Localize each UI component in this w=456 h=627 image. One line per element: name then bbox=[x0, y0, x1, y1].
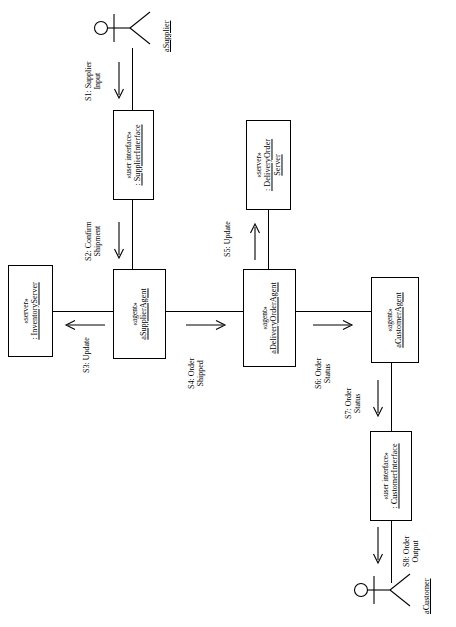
node-customer-interface-stereotype: «user interface» bbox=[381, 443, 390, 508]
message-s6-line1: S6: Order bbox=[314, 358, 323, 389]
node-customer-agent-stereotype: «agent» bbox=[385, 292, 394, 347]
message-s1-line1: S1: Supplier bbox=[84, 61, 93, 101]
message-s1-label: S1: Supplier Input bbox=[84, 61, 102, 101]
message-s1-line2: Input bbox=[93, 73, 102, 90]
node-inventory-server-label: «server» : InventoryServer bbox=[21, 282, 40, 340]
arrow-s3 bbox=[60, 318, 105, 332]
arrow-s5 bbox=[248, 222, 262, 262]
node-supplier-agent-stereotype: «agent» bbox=[130, 288, 139, 339]
node-inventory-server[interactable]: «server» : InventoryServer bbox=[8, 265, 53, 357]
node-supplier-agent-instance: aSupplierAgent bbox=[139, 288, 149, 339]
arrow-s1 bbox=[112, 62, 126, 102]
link-interface-to-supplier-agent bbox=[132, 200, 133, 276]
node-delivery-order-server-instance: : DeliveryOrder Server bbox=[263, 139, 283, 191]
message-s3-label: S3: Update bbox=[82, 337, 91, 373]
node-supplier-interface-stereotype: «user interface» bbox=[124, 124, 133, 185]
node-supplier-interface-instance: : SupplierInterface bbox=[133, 124, 143, 185]
node-delivery-order-server-stereotype: «server» bbox=[254, 139, 263, 191]
node-inventory-server-stereotype: «server» bbox=[21, 282, 30, 340]
message-s2-line2: Shipment bbox=[93, 226, 102, 257]
collaboration-diagram-canvas: aSupplier S1: Supplier Input «user inter… bbox=[0, 0, 456, 627]
actor-customer-label: aCustomer bbox=[422, 579, 431, 614]
node-delivery-order-agent-instance: aDeliveryOrderAgent bbox=[269, 282, 279, 353]
node-customer-interface-instance: : CustomerInterface bbox=[391, 443, 401, 508]
node-delivery-order-agent[interactable]: «agent» aDeliveryOrderAgent bbox=[243, 269, 296, 367]
node-supplier-agent[interactable]: «agent» aSupplierAgent bbox=[113, 269, 166, 359]
link-delivery-agent-to-customer-agent bbox=[296, 311, 371, 312]
message-s6-line2: Status bbox=[323, 364, 332, 384]
node-supplier-interface[interactable]: «user interface» : SupplierInterface bbox=[113, 110, 154, 200]
message-s8-label: S8: Order Output bbox=[402, 536, 420, 567]
node-delivery-order-server-instance-line2: Server bbox=[273, 154, 282, 175]
message-s6-label: S6: Order Status bbox=[314, 358, 332, 389]
node-customer-interface[interactable]: «user interface» : CustomerInterface bbox=[370, 431, 412, 521]
message-s7-line2: Status bbox=[353, 394, 362, 414]
message-s5-label: S5: Update bbox=[223, 221, 232, 257]
message-s4-line2: Shipped bbox=[196, 360, 205, 386]
node-delivery-order-server-label: «server» : DeliveryOrder Server bbox=[254, 139, 283, 191]
link-supplier-agent-to-inventory bbox=[53, 311, 113, 312]
node-customer-interface-label: «user interface» : CustomerInterface bbox=[381, 443, 400, 508]
node-supplier-agent-label: «agent» aSupplierAgent bbox=[130, 288, 149, 339]
arrow-s6 bbox=[313, 318, 358, 332]
node-customer-agent-label: «agent» aCustomerAgent bbox=[385, 292, 404, 347]
node-customer-agent-instance: aCustomerAgent bbox=[395, 292, 405, 347]
actor-supplier: aSupplier bbox=[92, 8, 158, 48]
message-s7-line1: S7: Order bbox=[344, 388, 353, 419]
node-supplier-interface-label: «user interface» : SupplierInterface bbox=[124, 124, 143, 185]
node-delivery-order-agent-label: «agent» aDeliveryOrderAgent bbox=[260, 282, 279, 353]
link-supplier-to-interface bbox=[132, 48, 133, 110]
arrow-s4 bbox=[186, 318, 231, 332]
message-s3-line1: S3: Update bbox=[82, 337, 91, 373]
message-s4-label: S4: Order Shipped bbox=[187, 358, 205, 389]
arrow-s8 bbox=[371, 527, 385, 567]
message-s2-label: S2: Confirm Shipment bbox=[84, 221, 102, 261]
message-s8-line2: Output bbox=[411, 540, 420, 562]
actor-supplier-label: aSupplier bbox=[162, 21, 171, 52]
message-s2-line1: S2: Confirm bbox=[84, 221, 93, 261]
link-customer-agent-to-customer-interface bbox=[391, 363, 392, 431]
node-delivery-order-server-instance-line1: : DeliveryOrder bbox=[263, 139, 272, 191]
node-delivery-order-agent-stereotype: «agent» bbox=[260, 282, 269, 353]
arrow-s2 bbox=[112, 222, 126, 262]
arrow-s7 bbox=[371, 380, 385, 420]
message-s5-line1: S5: Update bbox=[223, 221, 232, 257]
link-delivery-agent-to-delivery-server bbox=[268, 210, 269, 272]
node-customer-agent[interactable]: «agent» aCustomerAgent bbox=[371, 277, 419, 363]
link-supplier-agent-to-delivery-agent bbox=[166, 311, 243, 312]
message-s7-label: S7: Order Status bbox=[344, 388, 362, 419]
node-inventory-server-instance: : InventoryServer bbox=[30, 282, 40, 340]
message-s8-line1: S8: Order bbox=[402, 536, 411, 567]
message-s4-line1: S4: Order bbox=[187, 358, 196, 389]
node-delivery-order-server[interactable]: «server» : DeliveryOrder Server bbox=[246, 120, 291, 210]
actor-customer: aCustomer bbox=[352, 570, 418, 610]
